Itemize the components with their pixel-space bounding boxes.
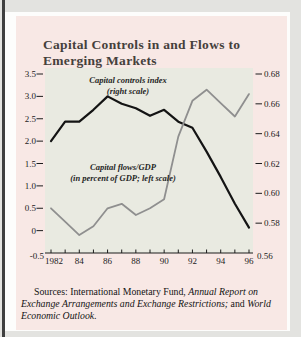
right-axis-tick-label: 0.68	[264, 69, 298, 79]
x-tick-label: 86	[93, 256, 123, 266]
figure-title: Capital Controls in and Flows to Emergin…	[43, 37, 283, 68]
right-axis-tick-label: 0.66	[264, 99, 298, 109]
left-axis-tick-label: 3.0	[2, 91, 36, 101]
left-axis-tick-label: 0.5	[2, 203, 36, 213]
figure-title-line2: Emerging Markets	[43, 53, 283, 69]
series-label-capital-controls-line2: (right scale)	[58, 86, 198, 97]
series-label-capital-flows-line2: (in percent of GDP; left scale)	[48, 173, 198, 184]
sources-mid: and	[228, 298, 247, 309]
x-tick-label: 88	[121, 256, 151, 266]
page-edge-rule	[2, 0, 5, 337]
right-axis-tick-label: 0.56	[257, 251, 291, 261]
right-axis-tick-label: 0.64	[264, 129, 298, 139]
right-axis-tick-label: 0.62	[264, 159, 298, 169]
series-label-capital-flows: Capital flows/GDP (in percent of GDP; le…	[48, 162, 198, 183]
sources-note: Sources: International Monetary Fund, An…	[21, 286, 285, 321]
series-label-capital-flows-line1: Capital flows/GDP	[48, 162, 198, 173]
left-axis-tick-label: -0.5	[2, 251, 44, 261]
x-tick-label: 90	[149, 256, 179, 266]
sources-prefix: Sources: International Monetary Fund,	[34, 286, 188, 297]
series-label-capital-controls-line1: Capital controls index	[58, 75, 198, 86]
x-tick-label: 84	[64, 256, 94, 266]
x-tick-label: 92	[177, 256, 207, 266]
series-label-capital-controls: Capital controls index (right scale)	[58, 75, 198, 96]
left-axis-tick-label: 0	[2, 226, 36, 236]
left-axis-tick-label: 2.5	[2, 114, 36, 124]
right-axis-tick-label: 0.58	[264, 218, 298, 228]
scanned-figure-page: Capital Controls in and Flows to Emergin…	[0, 0, 301, 337]
left-axis-tick-label: 1.5	[2, 159, 36, 169]
right-axis-tick-label: 0.60	[264, 188, 298, 198]
left-axis-tick-label: 3.5	[2, 69, 36, 79]
figure-title-line1: Capital Controls in and Flows to	[43, 37, 283, 53]
left-axis-tick-label: 1.0	[2, 181, 36, 191]
x-tick-label: 94	[206, 256, 236, 266]
left-axis-tick-label: 2.0	[2, 136, 36, 146]
